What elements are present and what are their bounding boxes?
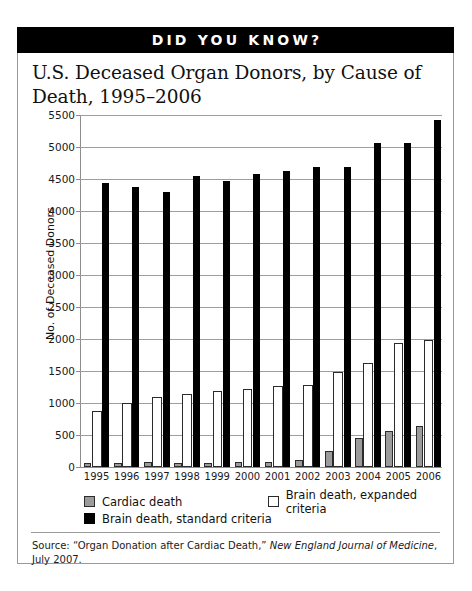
bar-brain-death-standard — [132, 187, 139, 467]
y-axis-tick-label: 5000 — [48, 141, 75, 153]
y-axis-tick-label: 2000 — [48, 333, 75, 345]
bar-cardiac-death — [355, 438, 363, 467]
legend-swatch-cardiac-icon — [84, 496, 95, 507]
bar-group — [416, 115, 442, 467]
y-axis-tick-label: 3500 — [48, 237, 75, 249]
legend-label-cardiac-death: Cardiac death — [102, 495, 182, 509]
bar-cardiac-death — [114, 463, 122, 467]
chart-title: U.S. Deceased Organ Donors, by Cause of … — [32, 61, 440, 109]
legend-item-brain-death-standard: Brain death, standard criteria — [84, 512, 286, 526]
bar-brain-death-standard — [434, 120, 441, 467]
bar-brain-death-standard — [374, 143, 381, 467]
bar-brain-death-expanded — [152, 397, 162, 467]
source-journal: New England Journal of Medicine — [270, 540, 434, 551]
bar-brain-death-expanded — [213, 391, 223, 467]
legend-row-1: Cardiac death Brain death, expanded crit… — [84, 493, 444, 510]
bar-cardiac-death — [325, 451, 333, 467]
source-divider — [31, 532, 440, 533]
legend-swatch-expanded-icon — [268, 496, 279, 507]
bar-group — [144, 115, 170, 467]
x-axis-tick-label: 2002 — [295, 471, 320, 482]
bar-brain-death-standard — [313, 167, 320, 467]
bar-brain-death-expanded — [333, 372, 343, 467]
banner-title: DID YOU KNOW? — [149, 32, 323, 48]
bar-brain-death-standard — [193, 176, 200, 467]
legend-swatch-standard-icon — [84, 513, 95, 524]
legend-item-cardiac-death: Cardiac death — [84, 495, 268, 509]
bar-cardiac-death — [385, 431, 393, 467]
bar-brain-death-expanded — [182, 394, 192, 467]
y-axis-tick-label: 4500 — [48, 173, 75, 185]
bar-group — [114, 115, 140, 467]
bar-group — [204, 115, 230, 467]
bar-group — [174, 115, 200, 467]
did-you-know-banner: DID YOU KNOW? — [17, 27, 454, 53]
legend-label-brain-death-standard: Brain death, standard criteria — [102, 512, 272, 526]
bar-brain-death-standard — [223, 181, 230, 467]
bar-cardiac-death — [174, 463, 182, 467]
bar-group — [84, 115, 110, 467]
bar-brain-death-expanded — [243, 389, 253, 467]
x-axis-tick-label: 1998 — [174, 471, 199, 482]
x-axis-tick-label: 2001 — [265, 471, 290, 482]
legend-item-brain-death-expanded: Brain death, expanded criteria — [268, 488, 444, 516]
plot-canvas: 0500100015002000250030003500400045005000… — [80, 115, 442, 467]
bar-brain-death-expanded — [92, 411, 102, 467]
x-axis-tick-label: 1996 — [114, 471, 139, 482]
y-axis-tick-label: 5500 — [48, 109, 75, 121]
x-axis-tick-label: 2004 — [355, 471, 380, 482]
plot-area: No. of Deceased Donors 05001000150020002… — [18, 115, 453, 517]
bar-brain-death-expanded — [424, 340, 434, 467]
x-axis-tick-label: 1999 — [205, 471, 230, 482]
bar-group — [385, 115, 411, 467]
y-axis-tick-label: 1000 — [48, 397, 75, 409]
x-axis-tick-label: 1997 — [144, 471, 169, 482]
x-axis-tick-label: 2000 — [235, 471, 260, 482]
bar-brain-death-standard — [344, 167, 351, 467]
bar-group — [355, 115, 381, 467]
bar-group — [325, 115, 351, 467]
bar-group — [295, 115, 321, 467]
bar-cardiac-death — [416, 426, 424, 467]
x-axis-tick-label: 2003 — [325, 471, 350, 482]
x-axis-tick-label: 1995 — [84, 471, 109, 482]
y-axis-tick-label: 2500 — [48, 301, 75, 313]
did-you-know-infographic: DID YOU KNOW? U.S. Deceased Organ Donors… — [0, 0, 472, 591]
y-axis-tick-label: 1500 — [48, 365, 75, 377]
chart-card-body: U.S. Deceased Organ Donors, by Cause of … — [17, 53, 454, 564]
source-prefix: Source: “Organ Donation after Cardiac De… — [32, 540, 270, 551]
y-axis-tick-label: 3000 — [48, 269, 75, 281]
bar-cardiac-death — [144, 462, 152, 467]
y-axis-tick-label: 500 — [55, 429, 75, 441]
bar-cardiac-death — [204, 463, 212, 467]
bar-brain-death-standard — [283, 171, 290, 467]
bar-cardiac-death — [295, 460, 303, 467]
bar-brain-death-expanded — [273, 386, 283, 467]
bar-brain-death-expanded — [122, 403, 132, 467]
bar-brain-death-standard — [163, 192, 170, 467]
bar-brain-death-expanded — [303, 385, 313, 467]
bar-brain-death-expanded — [394, 343, 404, 467]
bar-group — [235, 115, 261, 467]
legend-label-brain-death-expanded: Brain death, expanded criteria — [286, 488, 444, 516]
bar-brain-death-expanded — [363, 363, 373, 467]
x-axis-tick-label: 2005 — [386, 471, 411, 482]
source-note: Source: “Organ Donation after Cardiac De… — [32, 539, 442, 567]
x-axis-tick-label: 2006 — [416, 471, 441, 482]
y-axis-tick-label: 0 — [68, 461, 75, 473]
bars-layer — [80, 115, 442, 467]
bar-cardiac-death — [235, 462, 243, 467]
bar-group — [265, 115, 291, 467]
bar-brain-death-standard — [102, 183, 109, 467]
y-axis-tick-label: 4000 — [48, 205, 75, 217]
bar-brain-death-standard — [404, 143, 411, 467]
bar-cardiac-death — [265, 462, 273, 467]
bar-cardiac-death — [84, 463, 92, 467]
chart-legend: Cardiac death Brain death, expanded crit… — [84, 493, 444, 527]
chart-card: DID YOU KNOW? U.S. Deceased Organ Donors… — [17, 27, 454, 564]
bar-brain-death-standard — [253, 174, 260, 467]
